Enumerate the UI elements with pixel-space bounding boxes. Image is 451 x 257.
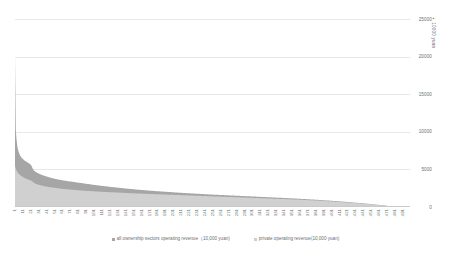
x-axis-tick-label: 181 (155, 209, 160, 216)
x-axis-tick-label: 301 (250, 209, 255, 216)
legend-swatch-icon (112, 238, 115, 241)
x-axis-tick-label: 111 (100, 209, 105, 216)
x-axis-tick-label: 11 (21, 209, 26, 213)
x-axis-tick-label: 321 (266, 209, 271, 216)
series-area-plot (15, 19, 410, 207)
x-axis-tick-label: 161 (140, 209, 145, 216)
x-axis-tick-label: 311 (258, 209, 263, 216)
x-axis-tick-label: 471 (385, 209, 390, 216)
x-axis-tick-label: 441 (361, 209, 366, 216)
legend-swatch-icon (254, 238, 257, 241)
x-axis-tick-label: 61 (60, 209, 65, 214)
y-axis-title-label: 10000 yuan (431, 22, 436, 48)
x-axis-tick-label: 231 (195, 209, 200, 216)
x-axis: 1112131415161718191101111121131141151161… (15, 209, 410, 233)
x-axis-tick-label: 251 (211, 209, 216, 216)
x-axis-tick-label: 21 (29, 209, 34, 214)
x-axis-tick-label: 481 (393, 209, 398, 216)
x-axis-tick-label: 431 (353, 209, 358, 216)
legend-label: private operating revenue(10,000 yuan) (259, 236, 339, 242)
chart-container: 2500020000150001000050000 ▪10000 yuan 11… (0, 0, 451, 257)
x-axis-tick-label: 1 (13, 209, 18, 211)
x-axis-tick-label: 291 (243, 209, 248, 216)
legend-item-private[interactable]: private operating revenue(10,000 yuan) (254, 236, 339, 242)
y-axis-tick-label: 15000 (419, 92, 432, 97)
x-axis-tick-label: 401 (330, 209, 335, 216)
x-axis-tick-label: 241 (203, 209, 208, 216)
axis-title-marker-icon: ▪ (431, 16, 436, 21)
x-axis-tick-label: 51 (53, 209, 58, 214)
x-axis-tick-label: 351 (290, 209, 295, 216)
x-axis-tick-label: 151 (132, 209, 137, 216)
legend-item-all-ownership[interactable]: all ownership sectors operating revenue（… (112, 236, 230, 242)
x-axis-tick-label: 191 (163, 209, 168, 216)
x-axis-tick-label: 41 (45, 209, 50, 214)
x-axis-tick-label: 381 (314, 209, 319, 216)
x-axis-tick-label: 491 (401, 209, 406, 216)
legend-label: all ownership sectors operating revenue（… (117, 236, 230, 242)
x-axis-tick-label: 451 (369, 209, 374, 216)
y-axis-title: ▪10000 yuan (431, 16, 436, 48)
x-axis-tick-label: 391 (322, 209, 327, 216)
x-axis-tick-label: 341 (282, 209, 287, 216)
x-axis-tick-label: 81 (76, 209, 81, 214)
x-axis-tick-label: 271 (227, 209, 232, 216)
x-axis-tick-label: 261 (219, 209, 224, 216)
x-axis-tick-label: 131 (116, 209, 121, 216)
x-axis-tick-label: 171 (148, 209, 153, 216)
y-axis-tick-label: 10000 (419, 129, 432, 134)
x-axis-tick-label: 121 (108, 209, 113, 216)
x-axis-tick-label: 331 (274, 209, 279, 216)
axis-baseline (15, 206, 410, 207)
x-axis-tick-label: 371 (306, 209, 311, 216)
y-axis: 2500020000150001000050000 (412, 0, 432, 225)
x-axis-tick-label: 31 (37, 209, 42, 214)
series-area-0 (15, 56, 410, 207)
x-axis-tick-label: 101 (92, 209, 97, 216)
chart-legend: all ownership sectors operating revenue（… (0, 236, 451, 242)
y-axis-tick-label: 20000 (419, 54, 432, 59)
x-axis-tick-label: 411 (338, 209, 343, 216)
y-axis-tick-label: 5000 (421, 167, 432, 172)
x-axis-tick-label: 281 (235, 209, 240, 216)
x-axis-tick-label: 211 (179, 209, 184, 216)
x-axis-tick-label: 461 (377, 209, 382, 216)
plot-area (15, 19, 410, 207)
x-axis-tick-label: 421 (345, 209, 350, 216)
y-axis-tick-label: 0 (429, 205, 432, 210)
x-axis-tick-label: 91 (84, 209, 89, 214)
x-axis-tick-label: 71 (68, 209, 73, 214)
x-axis-tick-label: 361 (298, 209, 303, 216)
x-axis-tick-label: 221 (187, 209, 192, 216)
x-axis-tick-label: 141 (124, 209, 129, 216)
x-axis-tick-label: 201 (171, 209, 176, 216)
